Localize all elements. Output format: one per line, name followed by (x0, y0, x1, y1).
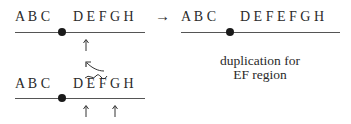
top-left-chromosome-line (15, 32, 145, 33)
curved-arrow-icon (82, 60, 108, 74)
bottom-left-seq-defgh: D E F G H (73, 77, 134, 91)
caption-line-1: duplication for (190, 54, 330, 68)
result-arrow-icon: → (155, 9, 170, 23)
top-left-centromere-dot (58, 28, 66, 36)
bottom-breakpoint-arrow-1-icon (80, 104, 92, 118)
top-left-breakpoint-arrow-icon (80, 38, 92, 52)
top-right-centromere-dot (226, 28, 234, 36)
top-left-seq-abc: A B C (15, 10, 50, 24)
bottom-left-seq-abc: A B C (15, 77, 50, 91)
top-left-seq-defgh: D E F G H (73, 10, 134, 24)
bottom-breakpoint-arrow-2-icon (109, 104, 121, 118)
top-right-seq-abc: A B C (181, 10, 216, 24)
caption-line-2: EF region (190, 68, 330, 82)
top-right-chromosome-line (181, 32, 340, 33)
bottom-left-centromere-dot (58, 94, 66, 102)
top-right-seq-defefgh: D E F E F G H (240, 10, 324, 24)
bottom-left-chromosome-line (15, 98, 145, 99)
